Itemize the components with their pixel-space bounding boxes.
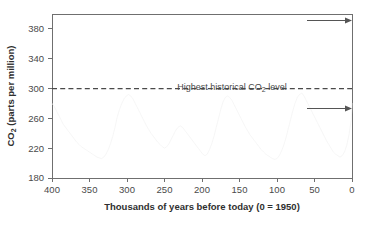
lower-arrow-head: [345, 106, 352, 112]
lower-arrow: [307, 106, 352, 112]
y-axis-title-rest: (parts per million): [5, 45, 16, 128]
y-axis-title-main: CO: [5, 132, 16, 146]
y-tick-label: 260: [28, 113, 44, 124]
co2-ice-core-chart: 180220260300340380 400350300250200150100…: [0, 0, 376, 226]
y-axis-title: CO2 (parts per million): [5, 45, 17, 146]
threshold-annotation-main: Highest historical CO: [177, 82, 262, 92]
y-tick-label: 300: [28, 83, 44, 94]
upper-arrow-head: [345, 18, 352, 24]
co2-series-line: [52, 93, 352, 159]
y-axis-ticks: 180220260300340380: [28, 23, 52, 183]
x-tick-label: 100: [269, 184, 285, 195]
chart-canvas: 180220260300340380 400350300250200150100…: [0, 0, 376, 226]
x-tick-label: 300: [119, 184, 135, 195]
x-tick-label: 0: [349, 184, 354, 195]
y-tick-label: 380: [28, 23, 44, 34]
x-axis-title: Thousands of years before today (0 = 195…: [104, 201, 300, 212]
y-tick-label: 220: [28, 143, 44, 154]
x-tick-label: 400: [44, 184, 60, 195]
y-tick-label: 340: [28, 53, 44, 64]
x-axis-ticks: 400350300250200150100500: [44, 178, 355, 195]
threshold-annotation-rest: level: [266, 82, 287, 92]
y-tick-label: 180: [28, 172, 44, 183]
x-tick-label: 250: [157, 184, 173, 195]
x-tick-label: 200: [194, 184, 210, 195]
upper-arrow: [307, 18, 352, 24]
x-tick-label: 50: [309, 184, 320, 195]
x-tick-label: 150: [232, 184, 248, 195]
x-tick-label: 350: [82, 184, 98, 195]
threshold-annotation-label: Highest historical CO2 level: [177, 82, 286, 93]
